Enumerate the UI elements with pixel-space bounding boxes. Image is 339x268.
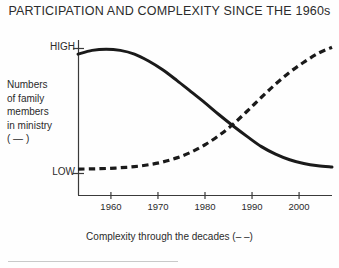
x-axis-tick-label: 1990 — [232, 201, 272, 212]
chart-page: PARTICIPATION AND COMPLEXITY SINCE THE 1… — [0, 0, 339, 268]
x-axis-tick-label: 2000 — [279, 201, 319, 212]
series-line-family-members — [78, 49, 332, 167]
series-line-complexity — [78, 47, 332, 169]
plot-area — [0, 0, 339, 268]
footer-divider — [8, 261, 178, 262]
x-axis-tick-label: 1960 — [91, 201, 131, 212]
x-axis-tick-label: 1970 — [138, 201, 178, 212]
x-axis-title: Complexity through the decades (– –) — [0, 231, 339, 242]
x-axis-tick-label: 1980 — [185, 201, 225, 212]
